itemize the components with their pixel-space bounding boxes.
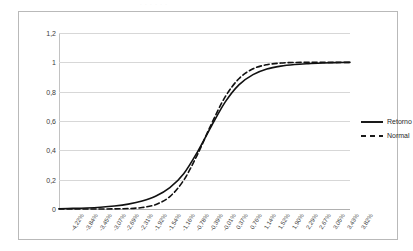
legend-item-retorno: Retorno (361, 115, 413, 129)
y-tick-label: 0 (22, 206, 56, 213)
x-tick-label: 1,52% (277, 213, 292, 231)
x-tick-label: -2,31% (139, 213, 155, 233)
y-tick-label: 0,2 (22, 176, 56, 183)
x-tick-label: 1,90% (291, 213, 306, 231)
x-tick-label: 2,67% (318, 213, 333, 231)
y-tick-label: 1,2 (22, 30, 56, 37)
dashed-line-swatch (361, 132, 383, 140)
legend-label-retorno: Retorno (387, 118, 412, 126)
x-tick-label: 3,05% (332, 213, 347, 231)
y-tick-label: 0,6 (22, 118, 56, 125)
x-tick-label: 2,29% (305, 213, 320, 231)
legend-item-normal: Normal (361, 129, 413, 143)
chart-figure-frame: 00,20,40,60,811,2 -4,22%-3,84%-3,45%-3,0… (18, 11, 398, 240)
x-tick-label: 0,76% (249, 213, 264, 231)
x-tick-label: 1,14% (263, 213, 278, 231)
chart-legend: Retorno Normal (361, 115, 413, 143)
x-tick-label: -4,22% (70, 213, 86, 233)
legend-label-normal: Normal (387, 132, 410, 140)
series-line-normal (59, 62, 350, 209)
scan-artifact-text: · · · · · · (140, 1, 320, 8)
y-tick-label: 0,4 (22, 147, 56, 154)
plot-area (59, 33, 350, 209)
x-tick-label: 3,43% (346, 213, 361, 231)
x-tick-label: -1,92% (153, 213, 169, 233)
series-line-retorno (59, 62, 350, 208)
x-tick-label: 3,82% (360, 213, 375, 231)
x-axis-tick-labels: -4,22%-3,84%-3,45%-3,07%-2,69%-2,31%-1,9… (59, 211, 350, 251)
y-tick-label: 1 (22, 59, 56, 66)
series-curves (59, 33, 350, 209)
y-axis-tick-labels: 00,20,40,60,811,2 (19, 33, 56, 210)
y-tick-label: 0,8 (22, 88, 56, 95)
solid-line-swatch (361, 118, 383, 126)
